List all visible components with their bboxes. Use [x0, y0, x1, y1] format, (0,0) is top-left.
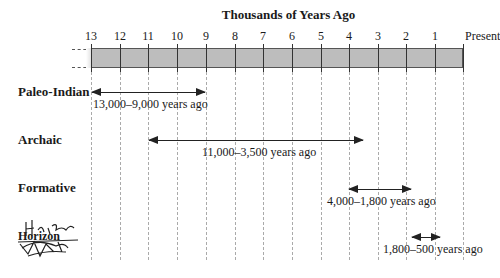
tick-mark	[321, 44, 322, 72]
tick-mark	[120, 44, 121, 72]
range-arrow-formative	[349, 189, 411, 190]
grid-line	[406, 72, 407, 260]
timeline-bar	[91, 48, 463, 68]
tick-label: 8	[232, 29, 238, 44]
tick-label: 5	[318, 29, 324, 44]
grid-line	[292, 72, 293, 260]
period-label-paleo-indian: Paleo-Indian	[18, 84, 90, 100]
tick-label: 4	[346, 29, 352, 44]
tick-mark	[378, 44, 379, 72]
tick-mark	[177, 44, 178, 72]
grid-line	[235, 72, 236, 260]
tick-label: 6	[289, 29, 295, 44]
chart-title: Thousands of Years Ago	[0, 7, 497, 23]
grid-line	[349, 72, 350, 260]
tick-mark	[406, 44, 407, 72]
range-arrow-paleo-indian	[92, 92, 205, 93]
range-label-archaic: 11,000–3,500 years ago	[202, 145, 316, 160]
period-label-formative: Formative	[18, 180, 76, 196]
range-arrow-archaic	[149, 140, 363, 141]
tick-label: 2	[403, 29, 409, 44]
tick-mark	[263, 44, 264, 72]
tick-label: 1	[432, 29, 438, 44]
range-label-paleo-indian: 13,000–9,000 years ago	[93, 97, 208, 112]
tick-label: 12	[114, 29, 126, 44]
range-label-horizon: 1,800–500 years ago	[383, 242, 483, 257]
grid-line	[91, 72, 92, 260]
tick-mark	[206, 44, 207, 72]
handwritten-scribble-icon	[18, 218, 88, 260]
tick-mark	[463, 44, 464, 72]
tick-label: 7	[260, 29, 266, 44]
range-arrow-horizon	[412, 237, 440, 238]
grid-line	[321, 72, 322, 260]
tick-mark	[435, 44, 436, 72]
tick-mark	[292, 44, 293, 72]
tick-label-present: Present	[465, 29, 500, 44]
tick-label: 10	[171, 29, 183, 44]
grid-line	[378, 72, 379, 260]
tick-mark	[148, 44, 149, 72]
tick-mark	[349, 44, 350, 72]
tick-label: 13	[85, 29, 97, 44]
period-label-archaic: Archaic	[18, 132, 62, 148]
grid-line	[463, 72, 464, 260]
range-label-formative: 4,000–1,800 years ago	[327, 194, 436, 209]
tick-label: 11	[142, 29, 154, 44]
tick-label: 9	[203, 29, 209, 44]
tick-mark	[235, 44, 236, 72]
tick-mark	[91, 44, 92, 72]
tick-label: 3	[375, 29, 381, 44]
grid-line	[435, 72, 436, 260]
grid-line	[263, 72, 264, 260]
